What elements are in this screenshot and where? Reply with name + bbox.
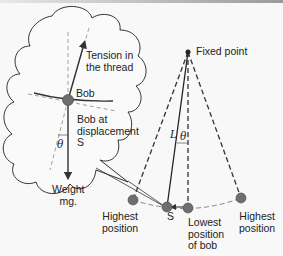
callout-bob xyxy=(63,95,74,106)
pendulum-theta-label: θ xyxy=(180,131,186,143)
bob-label: Bob xyxy=(76,88,95,100)
bob-lowest xyxy=(183,203,193,213)
highest-right-label: Highest position xyxy=(239,211,275,234)
bob-highest-left xyxy=(128,195,138,205)
bob-highest-right xyxy=(236,193,246,203)
s-label: S xyxy=(167,211,174,223)
weight-label: Weight mg. xyxy=(52,184,85,207)
displacement-label: Bob at displacement S xyxy=(77,114,139,149)
tension-label: Tension in the thread xyxy=(86,50,133,73)
callout-theta-label: θ xyxy=(57,139,63,151)
lowest-label: Lowest position of bob xyxy=(188,217,224,252)
pendulum-diagram: Tension in the thread Bob Bob at displac… xyxy=(0,0,283,256)
highest-left-label: Highest position xyxy=(102,211,138,234)
fixed-point-label: Fixed point xyxy=(196,46,247,58)
length-label: L xyxy=(170,129,177,141)
